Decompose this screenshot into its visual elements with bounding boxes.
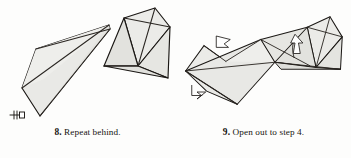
paper-shapes-step-8: [22, 8, 170, 116]
step-text: Repeat behind.: [64, 127, 121, 137]
figure-step-9: 9.Open out to step 4.: [176, 0, 351, 158]
paper-shapes-step-9: [186, 17, 343, 105]
open-out-arrow-upper: [216, 36, 230, 47]
repeat-tick-box: [20, 112, 25, 118]
figure-step-8: 8.Repeat behind.: [0, 0, 175, 158]
step-number: 9.: [223, 127, 230, 137]
caption-step-9: 9.Open out to step 4.: [176, 126, 351, 138]
step-text: Open out to step 4.: [233, 127, 305, 137]
step-number: 8.: [54, 127, 61, 137]
diagram-step-8: [0, 0, 175, 128]
diagram-step-9: [176, 0, 351, 128]
arrow-head-upper: [216, 36, 230, 47]
repeat-behind-symbol: [10, 111, 25, 119]
caption-step-8: 8.Repeat behind.: [0, 126, 175, 138]
origami-instruction-page: 8.Repeat behind.: [0, 0, 351, 158]
